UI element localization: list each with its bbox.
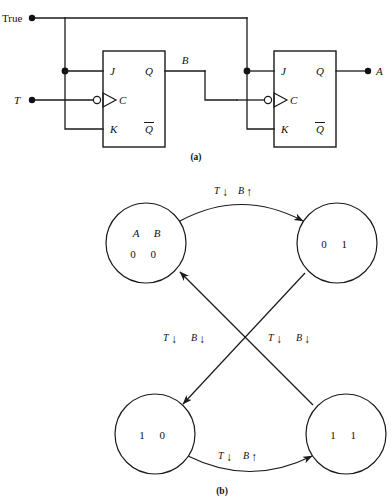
caption-a: (a): [190, 152, 201, 163]
figure-root: True T J C K: [0, 0, 392, 500]
transition-label-00-to-01-var1: T: [214, 185, 221, 196]
transition-label-11-to-00-var2: B: [296, 332, 302, 343]
transition-label-10-to-11: T ↓ B ↑: [218, 450, 257, 464]
flipflop-b-pin-c: C: [119, 94, 127, 106]
transition-label-00-to-01-var2: B: [238, 185, 244, 196]
flipflop-b-pin-qbar: Q: [145, 123, 153, 135]
a-output-label: A: [375, 65, 383, 77]
transition-label-00-to-01-arrow1: ↓: [222, 185, 228, 199]
state-node-00-label: 0 0: [130, 248, 162, 260]
transition-label-10-to-11-arrow2: ↑: [251, 450, 257, 464]
flipflop-b-clock-triangle-icon: [103, 93, 116, 107]
a-output-terminal[interactable]: [365, 68, 371, 74]
flipflop-b-pin-q: Q: [145, 65, 153, 77]
transition-label-11-to-00-arrow1: ↓: [276, 332, 282, 346]
state-diagram: A B 0 0 0 1 1 0 1 1 T ↓ B ↑: [106, 185, 386, 497]
transition-label-01-to-10: T ↓ B ↓: [163, 332, 205, 346]
figure-svg: True T J C K: [0, 0, 392, 500]
transition-label-10-to-11-arrow1: ↓: [226, 450, 232, 464]
b-output-label: B: [182, 54, 189, 66]
flipflop-a-pin-c: C: [290, 94, 298, 106]
true-input-terminal[interactable]: [29, 15, 35, 21]
t-input-terminal[interactable]: [29, 97, 35, 103]
transition-label-11-to-00-var1: T: [268, 332, 275, 343]
state-var-label-a: A: [132, 227, 140, 239]
state-var-label-b: B: [154, 227, 161, 239]
transition-label-00-to-01: T ↓ B ↑: [214, 185, 252, 199]
transition-label-10-to-11-var1: T: [218, 450, 225, 461]
flipflop-a-clock-bubble-icon: [264, 96, 271, 103]
flipflop-a-pin-j: J: [281, 65, 287, 77]
flipflop-a-pin-k: K: [280, 123, 289, 135]
true-input-label: True: [2, 12, 22, 24]
transition-label-11-to-00-arrow2: ↓: [304, 332, 310, 346]
transition-label-01-to-10-arrow2: ↓: [199, 332, 205, 346]
circuit-diagram: True T J C K: [2, 12, 383, 163]
state-node-00[interactable]: [106, 203, 186, 283]
transition-label-10-to-11-var2: B: [243, 450, 249, 461]
transition-label-01-to-10-var1: T: [163, 332, 170, 343]
transition-arc-00-to-01[interactable]: [180, 205, 303, 222]
transition-label-01-to-10-arrow1: ↓: [171, 332, 177, 346]
state-node-01-label: 0 1: [321, 238, 353, 250]
b-to-right-clock-wire: [205, 71, 237, 100]
flipflop-b-pin-j: J: [110, 65, 116, 77]
state-node-11-label: 1 1: [330, 429, 362, 441]
transition-label-00-to-01-arrow2: ↑: [246, 185, 252, 199]
transition-label-01-to-10-var2: B: [191, 332, 197, 343]
flipflop-a-clock-triangle-icon: [274, 93, 287, 107]
transition-arc-10-to-11[interactable]: [188, 456, 312, 472]
flipflop-b-pin-k: K: [109, 123, 118, 135]
state-node-10-label: 1 0: [139, 429, 171, 441]
caption-b: (b): [216, 486, 228, 497]
flipflop-a-pin-qbar: Q: [316, 123, 324, 135]
transition-label-11-to-00: T ↓ B ↓: [268, 332, 310, 346]
t-input-label: T: [14, 94, 21, 106]
flipflop-a-pin-q: Q: [316, 65, 324, 77]
flipflop-b-clock-bubble-icon: [93, 96, 100, 103]
